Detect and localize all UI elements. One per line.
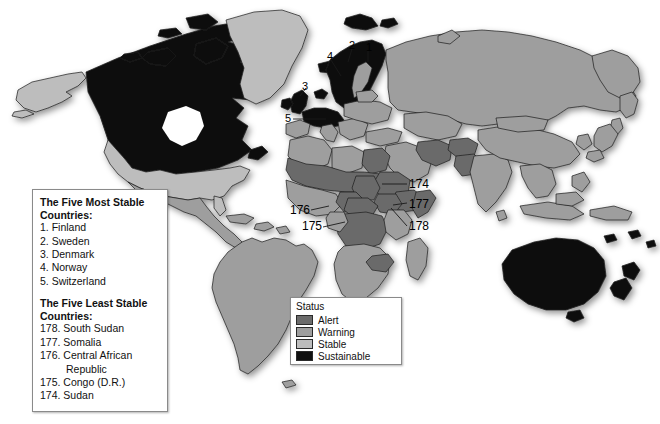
region-pacific-islets [604, 234, 617, 243]
least-stable-item-178: 178. South Sudan [40, 322, 160, 335]
region-southeast-asia [520, 164, 556, 198]
region-korea [576, 134, 592, 150]
region-denmark [314, 89, 328, 99]
callout-177: 177 [409, 199, 429, 210]
least-stable-item-174: 174. Sudan [40, 389, 160, 402]
region-alaska [16, 72, 86, 112]
region-pacific-islets-2 [628, 230, 641, 239]
most-stable-item-1: 1. Finland [40, 221, 160, 234]
world-map-figure: 1 2 4 3 5 174 177 178 176 175 The Five M… [0, 0, 660, 424]
most-stable-title-line2: Countries: [40, 209, 160, 222]
most-stable-title-line1: The Five Most Stable [40, 196, 160, 209]
most-stable-item-2: 2. Sweden [40, 235, 160, 248]
region-new-zealand-north [622, 262, 640, 280]
legend-swatch-stable [296, 339, 313, 349]
region-sri-lanka [496, 210, 507, 221]
least-stable-item-177: 177. Somalia [40, 336, 160, 349]
legend-label-warning: Warning [318, 327, 355, 338]
callout-1: 1 [366, 42, 372, 53]
region-australia [502, 238, 606, 310]
legend-label-alert: Alert [318, 315, 339, 326]
least-stable-title-line2: Countries: [40, 310, 160, 323]
region-new-guinea [590, 206, 632, 220]
callout-4: 4 [327, 51, 333, 62]
region-egypt [362, 148, 390, 174]
region-madagascar [406, 238, 428, 280]
region-southern-africa [334, 244, 390, 302]
most-stable-item-4: 4. Norway [40, 261, 160, 274]
legend-label-stable: Stable [318, 339, 346, 350]
region-tasmania [566, 310, 584, 322]
callout-174: 174 [409, 179, 429, 190]
legend-row-stable: Stable [296, 338, 397, 350]
region-kamchatka [620, 92, 638, 118]
region-new-zealand-south [610, 278, 632, 300]
region-svalbard-2 [380, 18, 398, 28]
region-svalbard [344, 14, 378, 30]
legend-swatch-sustainable [296, 351, 313, 361]
most-stable-item-3: 3. Denmark [40, 248, 160, 261]
region-borneo [556, 192, 584, 206]
region-newfoundland [248, 146, 268, 160]
region-philippines [572, 172, 590, 192]
most-stable-item-5: 5. Switzerland [40, 275, 160, 288]
callout-176: 176 [290, 205, 310, 216]
least-stable-title-line1: The Five Least Stable [40, 297, 160, 310]
legend-swatch-warning [296, 327, 313, 337]
region-falklands [282, 380, 296, 388]
region-russia [386, 30, 636, 126]
legend-row-alert: Alert [296, 314, 397, 326]
callout-175: 175 [302, 221, 322, 232]
region-caribbean-cuba [226, 214, 254, 224]
region-aleutians [12, 110, 34, 118]
least-stable-item-176: 176. Central African [40, 349, 160, 362]
callout-2: 2 [349, 40, 355, 51]
region-caribbean-hispaniola [254, 222, 274, 231]
legend-row-sustainable: Sustainable [296, 350, 397, 362]
callout-5: 5 [285, 113, 291, 124]
callout-178: 178 [409, 221, 429, 232]
least-stable-item-176-cont: Republic [40, 363, 160, 376]
status-legend-title: Status [296, 301, 397, 313]
status-legend: Status Alert Warning Stable Sustainable [290, 297, 402, 365]
region-turkey [366, 128, 402, 146]
region-baltics [356, 90, 378, 102]
region-caribbean-islets [276, 226, 290, 234]
region-east-africa [384, 210, 412, 240]
region-india [470, 154, 512, 212]
legend-swatch-alert [296, 315, 313, 325]
region-pacific-islets-3 [646, 240, 656, 248]
region-florida [214, 196, 226, 216]
legend-label-sustainable: Sustainable [318, 351, 370, 362]
callout-3: 3 [302, 81, 308, 92]
legend-row-warning: Warning [296, 326, 397, 338]
stability-ranking-panel: The Five Most Stable Countries: 1. Finla… [32, 189, 168, 412]
region-united-kingdom [290, 90, 308, 114]
panel-spacer [40, 288, 160, 297]
least-stable-item-175: 175. Congo (D.R.) [40, 376, 160, 389]
